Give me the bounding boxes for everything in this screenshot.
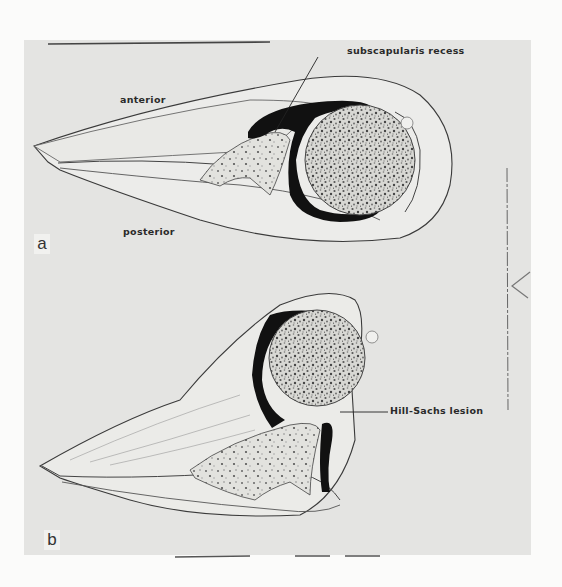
subscapularis-recess-label: subscapularis recess (347, 45, 465, 56)
posterior-label: posterior (123, 226, 175, 237)
hill-sachs-lesion-label: Hill-Sachs lesion (390, 405, 483, 416)
panel-b-letter: b (44, 530, 60, 550)
anterior-label: anterior (120, 94, 166, 105)
shoulder-cross-section-illustration (0, 0, 562, 587)
top-border-stroke (48, 42, 270, 44)
panel-a-drawing (34, 57, 452, 241)
right-margin-line (507, 168, 508, 410)
bottom-border-stroke (175, 556, 380, 557)
panel-a-letter: a (34, 234, 50, 254)
caret-mark-icon (512, 272, 530, 298)
panel-b-drawing (40, 294, 388, 516)
